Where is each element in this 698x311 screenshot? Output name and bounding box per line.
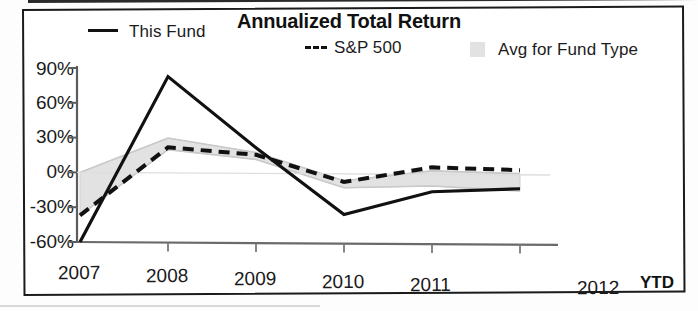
chart-plot-svg bbox=[0, 0, 698, 311]
avg-fund-type-band bbox=[80, 138, 520, 215]
x-axis-line bbox=[77, 242, 558, 245]
plot-area: Annualized Total Return This Fund S&P 50… bbox=[0, 0, 698, 311]
chart-page: Annualized Total Return This Fund S&P 50… bbox=[0, 0, 698, 311]
